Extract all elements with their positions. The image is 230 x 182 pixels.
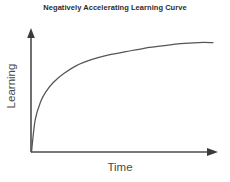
chart-figure: Negatively Accelerating Learning Curve L… (0, 0, 230, 182)
x-axis-label: Time (60, 161, 180, 173)
chart-plot-area (0, 0, 230, 182)
x-axis-arrowhead-icon (207, 148, 218, 156)
learning-curve-line (32, 42, 214, 152)
y-axis-arrowhead-icon (27, 28, 35, 38)
y-axis-label: Learning (5, 54, 17, 118)
